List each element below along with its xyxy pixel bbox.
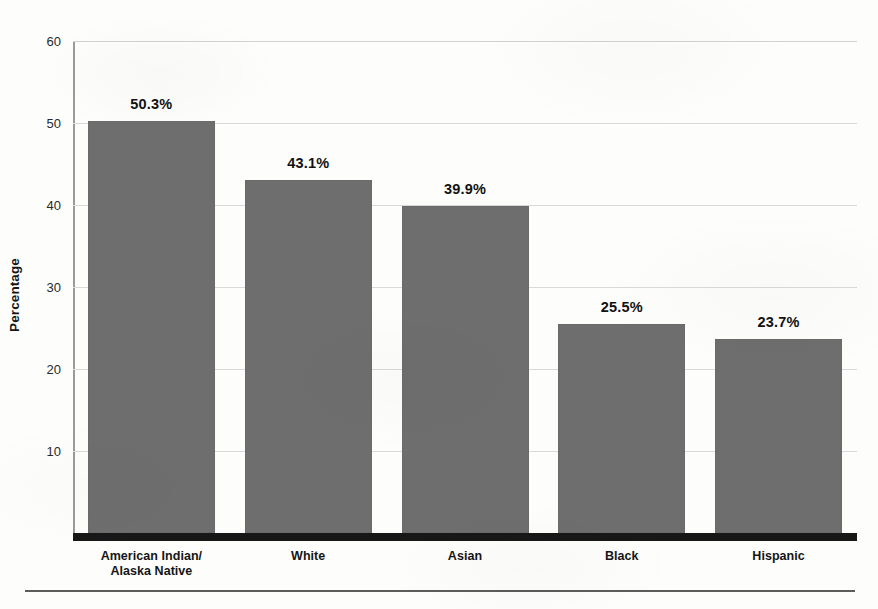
category-label-line: Alaska Native: [73, 564, 230, 579]
bar-value-label: 25.5%: [558, 299, 685, 315]
x-axis-category-label: White: [230, 549, 387, 564]
bar-value-label: 50.3%: [88, 96, 215, 112]
bar: [558, 324, 685, 533]
bar: [715, 339, 842, 533]
category-label-line: Hispanic: [700, 549, 857, 564]
bar-value-label: 23.7%: [715, 314, 842, 330]
y-tick-label-40: 40: [0, 198, 61, 213]
x-axis-category-label: Asian: [387, 549, 544, 564]
x-axis-category-label: American Indian/Alaska Native: [73, 549, 230, 579]
x-axis-baseline: [73, 533, 857, 541]
y-tick-label-50: 50: [0, 116, 61, 131]
bar: [88, 121, 215, 533]
y-tick-label-20: 20: [0, 362, 61, 377]
bar-value-label: 39.9%: [402, 181, 529, 197]
bar: [245, 180, 372, 533]
y-axis-title: Percentage: [7, 258, 22, 332]
category-label-line: Black: [543, 549, 700, 564]
x-axis-category-label: Hispanic: [700, 549, 857, 564]
bar-value-label: 43.1%: [245, 155, 372, 171]
y-axis-line: [73, 41, 75, 536]
footer-divider-rule: [25, 590, 855, 592]
category-label-line: Asian: [387, 549, 544, 564]
y-tick-label-60: 60: [0, 34, 61, 49]
y-tick-label-30: 30: [0, 280, 61, 295]
y-tick-label-10: 10: [0, 444, 61, 459]
bar-chart-figure: Percentage 605040302010 50.3%43.1%39.9%2…: [0, 0, 878, 609]
gridline-60: [73, 41, 857, 42]
category-label-line: American Indian/: [73, 549, 230, 564]
bar: [402, 206, 529, 533]
x-axis-category-label: Black: [543, 549, 700, 564]
category-label-line: White: [230, 549, 387, 564]
